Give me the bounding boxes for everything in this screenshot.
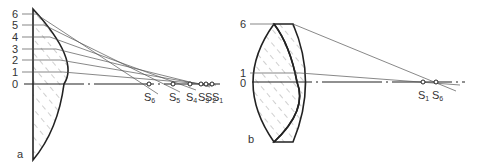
height-label-6: 6 bbox=[240, 18, 246, 30]
focal-point-s1 bbox=[421, 80, 425, 84]
lens-diagram: 6 5 4 3 2 1 0 S6 S5 S4 S3 S2 S1 a bbox=[0, 0, 479, 166]
focal-point-s5 bbox=[171, 82, 175, 86]
focal-point-s4 bbox=[188, 82, 192, 86]
focal-label-s1: S1 bbox=[212, 91, 223, 104]
figure-a: 6 5 4 3 2 1 0 S6 S5 S4 S3 S2 S1 a bbox=[12, 8, 223, 160]
focal-point-s6 bbox=[147, 82, 151, 86]
focal-point-s3 bbox=[199, 82, 203, 86]
height-label-0: 0 bbox=[12, 78, 18, 90]
height-label-5: 5 bbox=[12, 19, 18, 31]
focal-label-s1: S1 bbox=[418, 89, 429, 102]
focal-label-s4: S4 bbox=[186, 91, 197, 104]
focal-label-s6: S6 bbox=[144, 91, 155, 104]
focal-point-s2 bbox=[204, 82, 208, 86]
focal-label-s5: S5 bbox=[169, 91, 180, 104]
figure-label-b: b bbox=[248, 133, 254, 145]
height-label-4: 4 bbox=[12, 31, 18, 43]
height-label-1: 1 bbox=[12, 66, 18, 78]
focal-label-s6: S6 bbox=[432, 89, 443, 102]
height-label-2: 2 bbox=[12, 54, 18, 66]
figure-label-a: a bbox=[17, 148, 24, 160]
height-label-0: 0 bbox=[240, 77, 246, 89]
height-labels-a: 6 5 4 3 2 1 0 bbox=[12, 8, 18, 90]
figure-b: 6 1 0 S1 S6 b bbox=[240, 18, 465, 145]
focal-point-s6 bbox=[434, 80, 438, 84]
focal-point-s1 bbox=[210, 82, 214, 86]
